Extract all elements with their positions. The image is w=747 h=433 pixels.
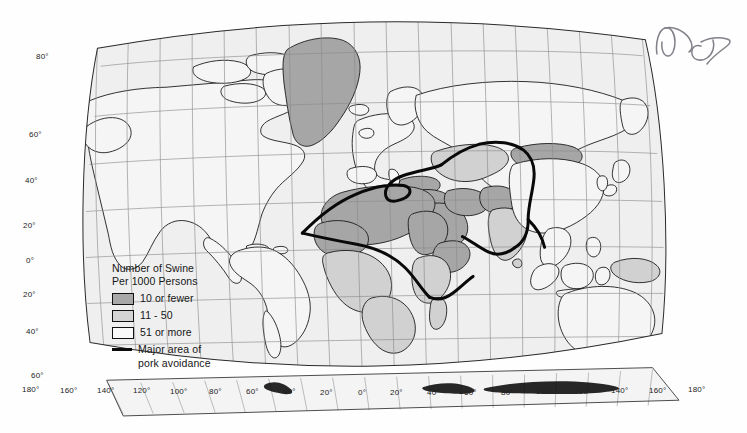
- lat-label-60n: 60°: [29, 130, 42, 139]
- pencil-scribble-annotation: [645, 8, 741, 68]
- lon-label-60e: 60°: [464, 388, 477, 397]
- legend-swatch-10-or-fewer: [112, 293, 134, 305]
- legend-line-pork-avoidance: [112, 348, 132, 351]
- lat-label-40n: 40°: [25, 176, 38, 185]
- lat-label-20s: 20°: [23, 290, 36, 299]
- lat-label-60s: 60°: [31, 371, 44, 380]
- legend-title-line2: Per 1000 Persons: [112, 275, 244, 288]
- lon-label-160w: 160°: [60, 386, 77, 395]
- lon-label-80e: 80°: [501, 388, 514, 397]
- legend-item-10-or-fewer: 10 or fewer: [112, 292, 244, 305]
- lon-label-140w: 140°: [97, 386, 114, 395]
- lon-label-100w: 100°: [170, 387, 187, 396]
- lon-label-160e: 160°: [649, 386, 666, 395]
- lon-label-100e: 100°: [536, 387, 553, 396]
- legend-label-pork-avoidance-1: Major area of: [138, 343, 201, 356]
- legend-label-10-or-fewer: 10 or fewer: [140, 292, 194, 305]
- map-legend: Number of Swine Per 1000 Persons 10 or f…: [112, 262, 244, 370]
- lon-label-20w: 20°: [320, 388, 333, 397]
- legend-item-51-or-more: 51 or more: [112, 326, 244, 339]
- legend-item-11-50: 11 - 50: [112, 309, 244, 322]
- lon-label-140e: 140°: [611, 386, 628, 395]
- lat-label-20n: 20°: [23, 221, 36, 230]
- legend-swatch-11-50: [112, 310, 134, 322]
- lon-label-20e: 20°: [390, 388, 403, 397]
- lon-label-40w: 40°: [283, 387, 296, 396]
- lon-label-40e: 40°: [427, 388, 440, 397]
- legend-label-11-50: 11 - 50: [140, 309, 173, 322]
- legend-swatch-51-or-more: [112, 327, 134, 339]
- lat-label-40s: 40°: [26, 327, 39, 336]
- legend-title-line1: Number of Swine: [112, 262, 244, 275]
- lon-label-180w: 180°: [22, 385, 39, 394]
- lon-label-120e: 120°: [574, 387, 591, 396]
- legend-label-51-or-more: 51 or more: [140, 326, 192, 339]
- lat-label-80n: 80°: [36, 52, 49, 61]
- legend-label-pork-avoidance-2: pork avoidance: [138, 357, 244, 370]
- lon-label-60w: 60°: [246, 387, 259, 396]
- legend-item-pork-avoidance: Major area of: [112, 343, 244, 356]
- lon-label-80w: 80°: [209, 387, 222, 396]
- lon-label-120w: 120°: [133, 386, 150, 395]
- lon-label-180e: 180°: [688, 385, 705, 394]
- lon-label-0: 0°: [358, 388, 366, 397]
- figure-page: 80° 60° 40° 20° 0° 20° 40° 60° 180° 160°…: [0, 0, 747, 433]
- lat-label-0: 0°: [26, 256, 34, 265]
